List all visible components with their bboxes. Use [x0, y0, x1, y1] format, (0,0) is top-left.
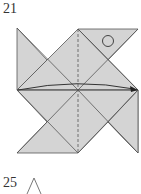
next-step-shape — [27, 178, 41, 194]
step-number-25: 25 — [3, 176, 17, 190]
origami-diagram — [0, 0, 141, 194]
